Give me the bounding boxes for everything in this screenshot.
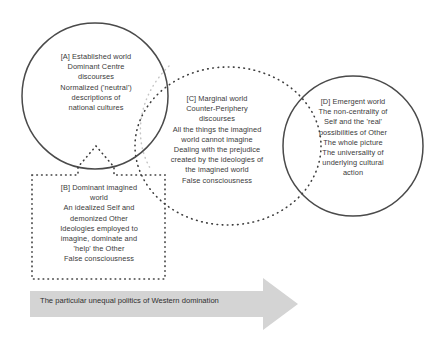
diagram-canvas: [A] Established world Dominant Centre di… [0, 0, 444, 338]
node-c-label: [C] Marginal world Counter-Periphery dis… [155, 94, 279, 186]
node-a-label: [A] Established world Dominant Centre di… [40, 52, 152, 113]
arrow-caption-label: The particular unequal politics of Weste… [40, 296, 290, 306]
node-d-label: [D] Emergent world The non-centrality of… [299, 97, 407, 179]
node-b-label: [B] Dominant imagined world An idealized… [36, 183, 162, 265]
